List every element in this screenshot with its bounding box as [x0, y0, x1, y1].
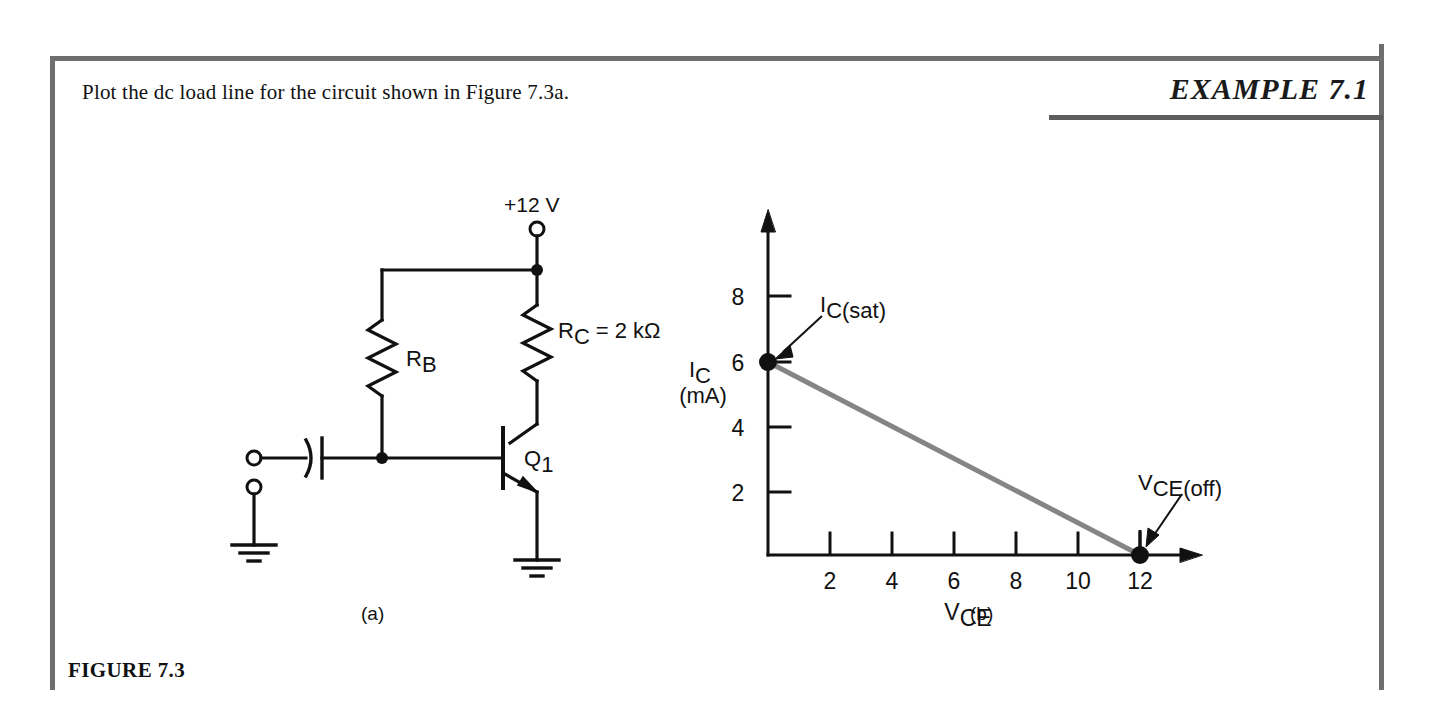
y-tick-label-8: 8: [732, 284, 745, 310]
x-tick-label-8: 8: [1010, 568, 1023, 594]
x-tick-label-2: 2: [824, 568, 837, 594]
ic-sat-marker-dot: [759, 353, 777, 371]
figure-caption: FIGURE 7.3: [68, 658, 185, 683]
dc-load-line: [768, 362, 1140, 555]
vce-off-marker-dot: [1131, 546, 1149, 564]
y-axis-units: (mA): [679, 383, 727, 408]
ic-sat-annotation-label: IC(sat): [820, 292, 886, 323]
load-line-graph: 8 6 4 2 2 4 6 8: [0, 0, 1429, 640]
example-page: Plot the dc load line for the circuit sh…: [0, 0, 1429, 725]
x-tick-label-10: 10: [1065, 568, 1091, 594]
y-tick-label-6: 6: [732, 350, 745, 376]
x-tick-label-12: 12: [1127, 568, 1153, 594]
x-tick-label-4: 4: [886, 568, 899, 594]
subfigure-label-b: (b): [970, 603, 993, 625]
vce-off-annotation-label: VCE(off): [1138, 470, 1222, 501]
subfigure-label-a: (a): [361, 603, 384, 625]
y-axis-arrowhead: [761, 210, 775, 232]
x-axis-arrowhead: [1180, 548, 1202, 562]
ic-sat-annotation-arrowhead: [775, 345, 793, 359]
y-tick-label-2: 2: [732, 480, 745, 506]
x-tick-label-6: 6: [948, 568, 961, 594]
y-tick-label-4: 4: [732, 415, 745, 441]
